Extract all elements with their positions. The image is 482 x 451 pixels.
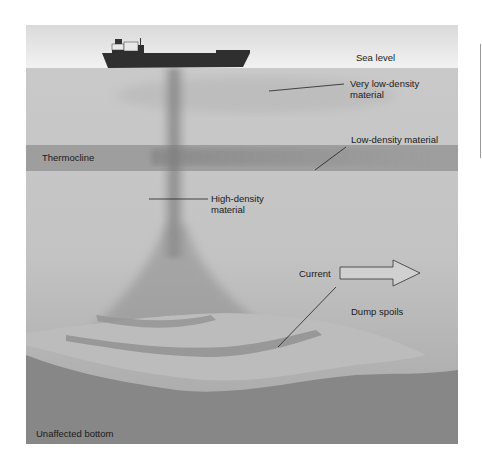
very-low-density-label-line1: Very low-density [350,78,419,89]
dump-spoils-label: Dump spoils [351,306,403,317]
high-density-label-line1: High-density [211,193,264,204]
page-rule [480,44,481,158]
unaffected-bottom-label: Unaffected bottom [36,428,113,439]
high-density-label-line2: material [211,204,245,215]
dredge-disposal-diagram: Sea level Very low-density material Low-… [26,25,458,444]
thermocline-label: Thermocline [42,152,94,163]
low-density-label: Low-density material [351,134,438,145]
sea-level-label: Sea level [356,52,395,63]
very-low-density-label-line2: material [350,89,384,100]
current-label: Current [299,268,331,279]
